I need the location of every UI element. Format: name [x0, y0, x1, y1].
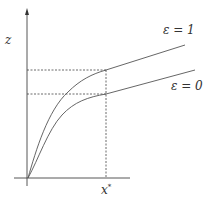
- x-marker-text: x: [101, 183, 108, 197]
- curve-label-epsilon-1: ε = 1: [163, 24, 195, 36]
- y-axis-label: z: [5, 34, 11, 46]
- curve-label-epsilon-0: ε = 0: [171, 80, 203, 92]
- x-marker-superscript: *: [108, 183, 112, 191]
- y-axis-arrow-icon: [25, 8, 29, 15]
- x-marker-label: x*: [101, 184, 111, 196]
- curve-epsilon-0: [28, 70, 195, 178]
- diagram: z ε = 1 ε = 0 x*: [0, 0, 208, 200]
- curve-epsilon-1: [28, 45, 185, 178]
